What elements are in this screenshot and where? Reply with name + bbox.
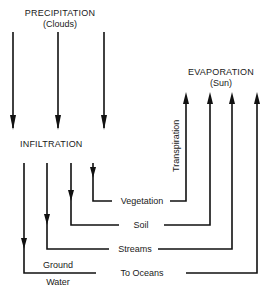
vegetation-branch xyxy=(93,163,112,201)
flow-label-streams: Streams xyxy=(114,244,156,254)
precipitation-title: PRECIPITATION xyxy=(20,8,100,18)
arrowhead-down xyxy=(21,238,27,249)
streams-branch xyxy=(47,163,109,249)
flow-label-vegetation: Vegetation xyxy=(115,196,169,206)
arrowhead-up xyxy=(207,92,213,104)
evaporation-subtitle: (Sun) xyxy=(186,78,256,88)
streams-return xyxy=(158,96,232,249)
arrowhead-up xyxy=(183,92,189,104)
arrowhead-up xyxy=(229,92,235,104)
arrowhead-down xyxy=(44,214,50,225)
flow-label-oceans: To Oceans xyxy=(112,268,172,278)
arrowhead-down xyxy=(68,190,74,201)
oceans-branch xyxy=(24,163,96,273)
flow-label-soil: Soil xyxy=(122,220,160,230)
ground-water-label-line2: Water xyxy=(40,277,76,287)
arrowhead-down xyxy=(10,115,16,130)
oceans-return xyxy=(186,96,257,273)
arrowhead-down xyxy=(101,115,107,130)
soil-branch xyxy=(71,163,119,225)
infiltration-title: INFILTRATION xyxy=(20,139,90,149)
arrowhead-up xyxy=(254,92,260,104)
arrowhead-down xyxy=(55,115,61,130)
transpiration-label: Transpiration xyxy=(171,120,181,172)
ground-water-label-line1: Ground xyxy=(40,260,76,270)
precipitation-subtitle: (Clouds) xyxy=(20,19,100,29)
arrowhead-down xyxy=(90,167,96,178)
evaporation-title: EVAPORATION xyxy=(186,67,256,77)
